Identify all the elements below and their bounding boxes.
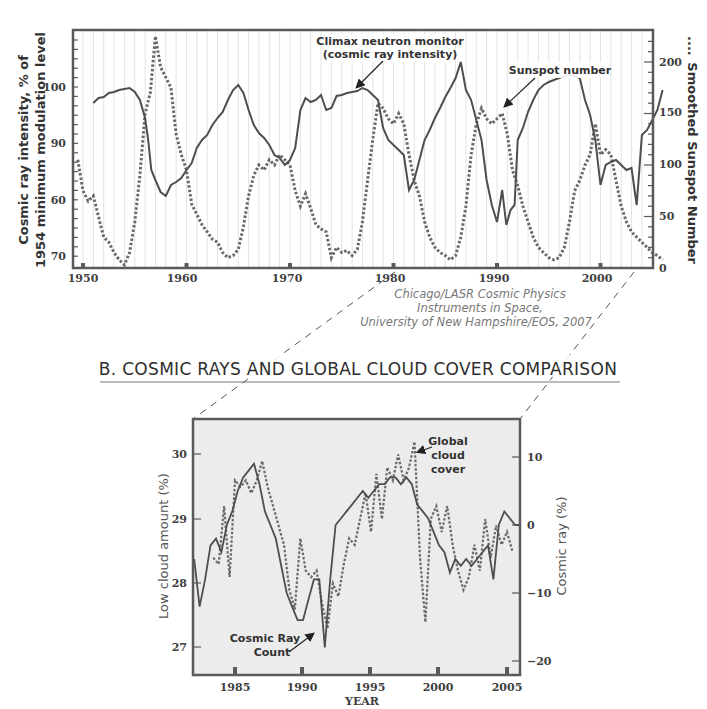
top-right-tick-label: 150: [659, 106, 682, 119]
zoom-connector-left: [193, 272, 395, 419]
top-right-tick-label: 200: [659, 56, 682, 69]
bottom-left-tick-label: 27: [172, 641, 187, 654]
annotation-neutron-line2: (cosmic ray intensity): [323, 48, 458, 61]
bottom-x-tick-label: 2000: [423, 681, 454, 694]
top-chart: 100 90 60 70 200 150 100 50 0 1950 1960 …: [16, 30, 700, 285]
bottom-left-tick-label: 30: [172, 448, 188, 461]
top-right-tick-label: 100: [659, 158, 682, 171]
top-right-tick-label: 0: [659, 262, 667, 275]
credit-line2: Instruments in Space,: [417, 301, 543, 315]
top-x-tick-label: 1960: [167, 272, 198, 285]
dotted-legend-marker: ....: [685, 36, 700, 56]
top-left-tick-label: 90: [51, 137, 67, 150]
bottom-x-tick-label: 1995: [355, 681, 386, 694]
top-right-tick-label: 50: [659, 210, 675, 223]
section-b-title: B. COSMIC RAYS AND GLOBAL CLOUD COVER CO…: [99, 359, 617, 379]
bottom-left-tick-label: 29: [172, 513, 187, 526]
bottom-x-tick-label: 2005: [492, 681, 523, 694]
top-x-tick-label: 1990: [479, 272, 510, 285]
top-x-tick-label: 2000: [582, 272, 613, 285]
credit-line1: Chicago/LASR Cosmic Physics: [394, 287, 565, 301]
bottom-y-left-title: Low cloud amount (%): [156, 473, 171, 619]
annotation-cloud-line2: cloud: [431, 449, 465, 462]
annotation-cloud-line3: cover: [431, 463, 466, 476]
top-y-left-title-line1: Cosmic ray intensity, % of: [16, 55, 31, 245]
bottom-right-tick-label: −10: [527, 587, 552, 600]
top-left-tick-label: 70: [51, 250, 67, 263]
credit-line3: University of New Hampshire/EOS, 2007: [360, 315, 592, 329]
bottom-x-tick-label: 1985: [220, 681, 251, 694]
figure: 100 90 60 70 200 150 100 50 0 1950 1960 …: [0, 0, 707, 709]
top-y-left-title-line2: 1954 minimum modulation level: [33, 32, 48, 268]
bottom-x-title: YEAR: [344, 695, 380, 708]
bottom-x-tick-label: 1990: [287, 681, 318, 694]
bottom-right-tick-label: −20: [527, 655, 552, 668]
annotation-cloud-line1: Global: [428, 435, 467, 448]
bottom-chart: 30 29 28 27 10 0 −10 −20 1985 1990 1995 …: [156, 419, 569, 708]
sunspot-arrow-icon: [505, 78, 535, 106]
top-x-tick-label: 1970: [272, 272, 303, 285]
top-y-right-title: Smoothed Sunspot Number: [685, 62, 700, 264]
bottom-right-tick-label: 10: [527, 451, 543, 464]
top-left-tick-label: 60: [51, 194, 67, 207]
annotation-cosmic-ray-line2: Count: [254, 646, 291, 659]
bottom-y-right-title: Cosmic ray (%): [554, 497, 569, 596]
annotation-neutron-line1: Climax neutron monitor: [316, 35, 464, 48]
annotation-sunspot: Sunspot number: [509, 64, 612, 77]
bottom-right-tick-label: 0: [527, 519, 535, 532]
annotation-cosmic-ray-line1: Cosmic Ray: [230, 632, 301, 645]
top-x-tick-label: 1950: [68, 272, 99, 285]
neutron-arrow-icon: [357, 61, 383, 87]
bottom-left-tick-label: 28: [172, 577, 188, 590]
svg-text:.... Smoothed Sunspot: .... Smoothed Sunspot Number: [685, 36, 700, 265]
